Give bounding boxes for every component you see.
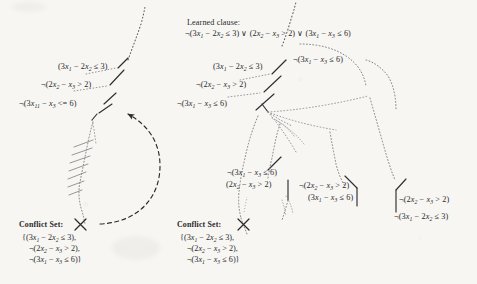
right-tree-label-10: ¬(3x1 − 2x2 ≤ 3) [394, 212, 448, 223]
left-tree-upper-dotted-branch [128, 7, 145, 60]
right-tree-label-6: (2x2 − x3 > 2) [226, 180, 272, 191]
left-conflict-set-title: Conflict Set: [19, 220, 63, 230]
right-tree-label-3: ¬(3x1 − x3 ≤ 6) [177, 99, 227, 110]
conflict-set-line: ¬(3x1 − x3 ≤ 6)} [180, 255, 240, 266]
backjump-arrow [100, 114, 160, 224]
left-conflict-set-lines: {(3x1 − 2x2 ≤ 3), ¬(2x2 − x3 > 2), ¬(3x1… [22, 233, 82, 266]
left-tree-zigzag-edge [79, 122, 93, 224]
learned-clause-text: ¬(3x1 − 2x2 ≤ 3) ∨ (2x2 − x3 > 2) ∨ (3x1… [185, 29, 351, 40]
conflict-set-line: {(3x1 − 2x2 ≤ 3), [180, 233, 240, 244]
dpll-search-tree-figure: Learned clause: ¬(3x1 − 2x2 ≤ 3) ∨ (2x2 … [0, 0, 477, 284]
conflict-set-line: {(3x1 − 2x2 ≤ 3), [22, 233, 82, 244]
right-tree-label-4: ¬(3x1 − x3 ≤ 6) [293, 55, 343, 66]
right-x-tick [244, 197, 247, 212]
right-conflict-set-lines: {(3x1 − 2x2 ≤ 3), ¬(2x2 − x3 > 2), ¬(3x1… [180, 233, 240, 266]
right-tree-label-8: (3x1 − x3 ≤ 6) [308, 193, 353, 204]
left-tree-hatch-marks [68, 140, 93, 195]
right-tree-label-9: ¬(2x2 − x3 > 2) [399, 195, 449, 206]
left-tree-label-3: ¬(3x11 − x3 <= 6) [19, 99, 76, 110]
right-tree-label-2: ¬(2x2 − x3 > 2) [196, 80, 246, 91]
left-tree-label-1: (3x1 − 2x2 ≤ 3) [58, 62, 108, 73]
learned-clause-header: Learned clause: [187, 18, 240, 29]
right-conflict-set-title: Conflict Set: [177, 220, 221, 230]
conflict-set-line: ¬(2x2 − x3 > 2), [180, 244, 240, 255]
scan-smudge [12, 2, 46, 12]
left-tree-label-2: ¬(2x2 − x3 > 2) [41, 80, 91, 91]
scan-smudge [112, 236, 160, 260]
right-tree-label-7: ¬(2x2 − x3 > 2) [299, 181, 349, 192]
right-tree-label-5: ¬(3x1 − x3 ≤ 6) [227, 168, 277, 179]
conflict-set-line: ¬(3x1 − x3 ≤ 6)} [22, 255, 82, 266]
right-tree-label-1: (3x1 − 2x2 ≤ 3) [213, 62, 263, 73]
conflict-set-line: ¬(2x2 − x3 > 2), [22, 244, 82, 255]
